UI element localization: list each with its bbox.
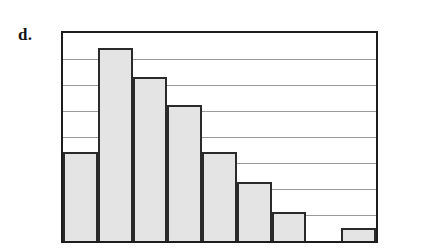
histogram-bar bbox=[237, 182, 272, 241]
plot-area bbox=[63, 33, 376, 241]
histogram-bar bbox=[63, 152, 98, 241]
histogram-bar bbox=[202, 152, 237, 241]
histogram-bar bbox=[167, 105, 202, 242]
histogram-bar bbox=[98, 48, 133, 241]
plot-frame bbox=[61, 31, 378, 243]
histogram-bar bbox=[133, 77, 168, 241]
part-label: d. bbox=[18, 26, 32, 43]
figure-root: d. bbox=[0, 0, 432, 249]
histogram-bar bbox=[341, 228, 376, 241]
histogram-bar bbox=[272, 212, 307, 241]
